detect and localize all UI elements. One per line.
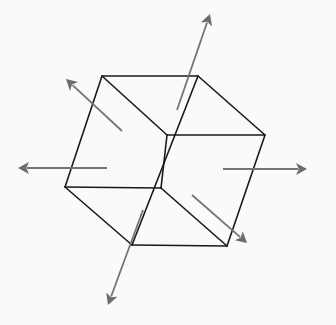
bottom-edge (132, 245, 227, 246)
arrow-up (177, 14, 212, 110)
arrow-lower-right (192, 195, 247, 243)
arrow-shaft (192, 195, 240, 237)
arrow-shaft (111, 210, 143, 297)
arrow-down (106, 210, 143, 305)
arrow-left (18, 162, 107, 174)
long-vertical-edge (132, 76, 198, 245)
top-diagonal-edge (102, 76, 167, 135)
arrow-right (223, 163, 307, 175)
top-right-edge (198, 76, 265, 135)
cube-wireframe (65, 76, 265, 246)
middle-left-edge (65, 187, 161, 188)
left-edge (65, 76, 102, 187)
arrow-shaft (177, 23, 207, 110)
outward-arrows (18, 14, 307, 305)
exploding-cube-diagram (0, 0, 336, 325)
lower-left-edge (65, 187, 132, 245)
